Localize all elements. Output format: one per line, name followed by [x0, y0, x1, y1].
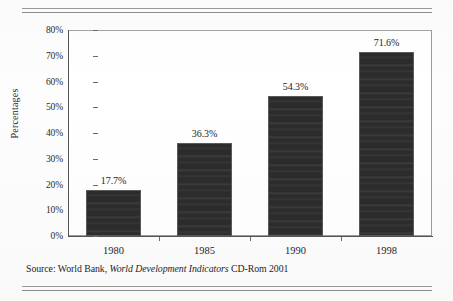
y-axis-title: Percentages — [9, 79, 20, 149]
y-tick-label: 80% — [30, 25, 63, 35]
bar-value-label: 71.6% — [352, 37, 422, 48]
bar — [359, 52, 414, 236]
y-axis-tick-labels: 0%10%20%30%40%50%60%70%80% — [30, 0, 63, 301]
figure-container: Percentages 0%10%20%30%40%50%60%70%80% 1… — [0, 0, 453, 301]
y-tick-mark — [93, 82, 98, 83]
y-axis-line — [68, 30, 69, 237]
x-category-label: 1990 — [261, 245, 331, 257]
x-tick-mark — [250, 237, 251, 241]
y-tick-label: 10% — [30, 205, 63, 215]
y-tick-label: 40% — [30, 128, 63, 138]
y-tick-label: 0% — [30, 231, 63, 241]
y-tick-label: 30% — [30, 154, 63, 164]
x-tick-mark — [341, 237, 342, 241]
source-publication-title: World Development Indicators — [109, 263, 228, 274]
bar-value-label: 54.3% — [261, 81, 331, 92]
source-suffix: CD-Rom 2001 — [229, 263, 289, 274]
x-category-label: 1980 — [79, 245, 149, 257]
top-rule-line-2 — [22, 12, 432, 13]
y-tick-mark — [93, 159, 98, 160]
bottom-rule-line-1 — [22, 286, 432, 287]
x-category-label: 1985 — [170, 245, 240, 257]
bottom-double-rule — [22, 286, 432, 292]
y-tick-label: 50% — [30, 102, 63, 112]
y-tick-label: 70% — [30, 51, 63, 61]
y-tick-mark — [93, 56, 98, 57]
top-double-rule — [22, 8, 432, 14]
top-rule-line-1 — [22, 8, 432, 9]
x-tick-mark — [159, 237, 160, 241]
y-tick-label: 60% — [30, 77, 63, 87]
y-tick-mark — [93, 236, 98, 237]
source-prefix: Source: World Bank, — [26, 263, 109, 274]
y-tick-mark — [93, 107, 98, 108]
bar-value-label: 17.7% — [79, 175, 149, 186]
bar — [177, 143, 232, 236]
y-tick-mark — [93, 133, 98, 134]
bar — [268, 96, 323, 236]
x-category-label: 1998 — [352, 245, 422, 257]
y-tick-label: 20% — [30, 180, 63, 190]
bar-value-label: 36.3% — [170, 128, 240, 139]
source-caption: Source: World Bank, World Development In… — [26, 263, 288, 275]
bar — [86, 190, 141, 236]
bottom-rule-line-2 — [22, 290, 432, 291]
y-tick-mark — [93, 30, 98, 31]
